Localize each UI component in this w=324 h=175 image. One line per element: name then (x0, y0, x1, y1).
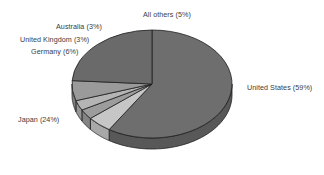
pie-label-japan: Japan (24%) (18, 115, 59, 124)
pie-chart-figure: United States (59%) Japan (24%) Germany … (0, 0, 324, 175)
pie-label-united-states: United States (59%) (247, 83, 312, 92)
pie-label-united-kingdom: United Kingdom (3%) (20, 35, 89, 44)
pie-label-all-others: All others (5%) (143, 10, 191, 19)
pie-top-face-group (72, 30, 232, 138)
pie-label-australia: Australia (3%) (56, 22, 102, 31)
pie-label-germany: Germany (6%) (31, 47, 78, 56)
